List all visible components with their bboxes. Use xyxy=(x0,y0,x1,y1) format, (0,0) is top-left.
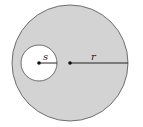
label-s: s xyxy=(43,51,48,62)
outer-center-dot xyxy=(68,61,72,65)
inner-center-dot xyxy=(37,61,41,65)
circles-diagram: s r xyxy=(0,0,143,127)
